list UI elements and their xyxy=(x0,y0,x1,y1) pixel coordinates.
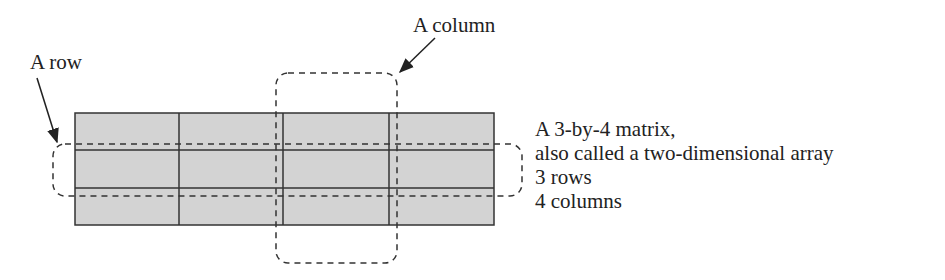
description-line: A 3-by-4 matrix, xyxy=(535,117,834,141)
row-arrow-icon xyxy=(37,78,57,142)
description-line: also called a two-dimensional array xyxy=(535,141,834,165)
description-line: 4 columns xyxy=(535,189,834,213)
matrix-grid xyxy=(75,113,494,225)
matrix-description: A 3-by-4 matrix, also called a two-dimen… xyxy=(535,117,834,213)
column-label: A column xyxy=(413,13,495,37)
column-arrow-icon xyxy=(400,38,435,72)
description-line: 3 rows xyxy=(535,165,834,189)
row-label: A row xyxy=(30,50,82,74)
